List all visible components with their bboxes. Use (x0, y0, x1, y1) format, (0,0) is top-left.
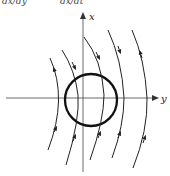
flow-line-far-right (132, 30, 147, 168)
vertical-axis-arrow-icon (80, 12, 86, 19)
flow-lines (48, 30, 147, 168)
vertical-axis-label: x (89, 11, 95, 22)
flow-line-far-left (48, 58, 59, 150)
horizontal-axis-label: y (160, 93, 167, 104)
axes: x y (6, 11, 167, 172)
phase-portrait-diagram: dx/dy dx/dt x y (0, 0, 170, 176)
arrow-icon (143, 137, 145, 143)
arrow-icon (72, 62, 75, 68)
horizontal-axis-arrow-icon (152, 95, 159, 101)
header-text-left: dx/dy (2, 0, 28, 6)
arrow-icon (96, 52, 99, 58)
header-text-right: dx/dt (60, 0, 84, 6)
arrow-icon (54, 69, 55, 72)
flow-line-center (84, 37, 104, 160)
flow-line-inner-left (62, 50, 78, 165)
limit-circle (65, 74, 117, 126)
arrow-icon (118, 46, 120, 52)
